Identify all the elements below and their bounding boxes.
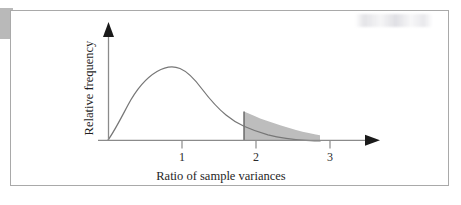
x-tick-label-2: 2: [253, 150, 259, 164]
x-tick-label-1: 1: [179, 150, 185, 164]
x-tick-label-3: 3: [327, 150, 333, 164]
right-tail-shaded-region: [244, 112, 320, 141]
figure-root: 1 2 3 Ratio of sample variances Relative…: [0, 0, 461, 205]
y-axis-title: Relative frequency: [82, 40, 96, 135]
y-axis-up-arrow-icon: [103, 22, 114, 37]
x-axis-right-arrow-icon: [365, 135, 380, 146]
distribution-plot: 1 2 3 Ratio of sample variances Relative…: [10, 10, 449, 186]
x-axis-title: Ratio of sample variances: [156, 169, 286, 183]
